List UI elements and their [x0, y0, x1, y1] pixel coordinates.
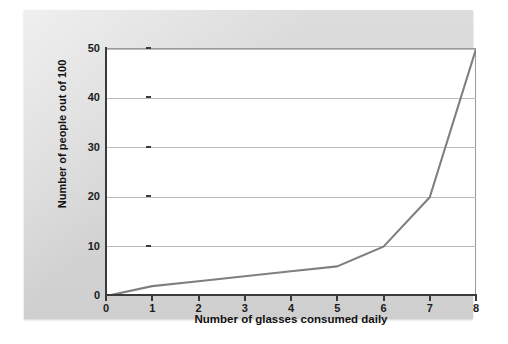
x-tick-mark — [105, 296, 107, 301]
x-tick-mark — [336, 296, 338, 301]
x-tick-mark — [383, 296, 385, 301]
x-tick-mark — [198, 296, 200, 301]
x-axis-ticks: 012345678 — [24, 10, 508, 344]
chart-panel: 01020304050 012345678 Number of people o… — [24, 10, 473, 319]
x-axis-title: Number of glasses consumed daily — [106, 313, 476, 325]
x-tick-mark — [151, 296, 153, 301]
x-tick-mark — [244, 296, 246, 301]
x-tick-mark — [429, 296, 431, 301]
x-tick-mark — [475, 296, 477, 301]
y-axis-title: Number of people out of 100 — [56, 34, 68, 234]
x-tick-mark — [290, 296, 292, 301]
figure: 01020304050 012345678 Number of people o… — [0, 0, 508, 344]
